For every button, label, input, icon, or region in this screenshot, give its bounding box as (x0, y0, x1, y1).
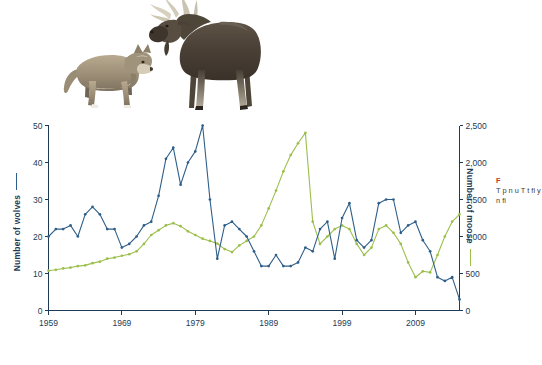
data-point (165, 157, 168, 160)
animal-illustrations (0, 0, 300, 118)
data-point (91, 262, 94, 265)
data-point (253, 250, 256, 253)
y-left-tick-label: 10 (33, 269, 43, 279)
data-point (282, 170, 285, 173)
data-point (216, 257, 219, 260)
data-point (333, 228, 336, 231)
wolf-illustration (62, 26, 154, 112)
series-path (49, 126, 460, 300)
data-point (289, 265, 292, 268)
data-point (436, 276, 439, 279)
y-axis-right-title: Number of moose (465, 157, 475, 277)
data-point (267, 207, 270, 210)
figure-caption-heading: F (496, 176, 542, 186)
y-right-ticks (460, 126, 464, 311)
data-point (143, 224, 146, 227)
data-point (282, 265, 285, 268)
data-point (392, 198, 395, 201)
data-point (172, 222, 175, 225)
data-point (304, 132, 307, 135)
y-axis-left-title: Number of wolves (12, 162, 22, 282)
y-axis-right-title-text: Number of moose (465, 168, 475, 243)
data-point (392, 231, 395, 234)
data-point (348, 228, 351, 231)
data-point (150, 234, 153, 237)
data-point (326, 235, 329, 238)
data-point (121, 246, 124, 249)
series-path (49, 133, 460, 277)
data-point (399, 231, 402, 234)
data-point (341, 217, 344, 220)
moose-illustration (148, 0, 270, 118)
data-point (157, 229, 160, 232)
x-ticks (49, 311, 416, 315)
data-point (289, 154, 292, 157)
data-point (91, 206, 94, 209)
data-point (231, 220, 234, 223)
data-point (319, 228, 322, 231)
data-point (172, 146, 175, 149)
data-point (77, 235, 80, 238)
y-axis-left-title-text: Number of wolves (12, 195, 22, 271)
data-point (62, 228, 65, 231)
y-left-ticks (45, 126, 49, 311)
data-point (143, 243, 146, 246)
data-point (99, 213, 102, 216)
data-point (421, 270, 424, 273)
data-point (370, 246, 373, 249)
data-point (458, 213, 461, 216)
data-point (223, 248, 226, 251)
data-point (333, 257, 336, 260)
data-point (421, 239, 424, 242)
data-point (451, 276, 454, 279)
data-point (47, 235, 50, 238)
x-tick-label: 1959 (39, 318, 58, 328)
data-point (69, 266, 72, 269)
data-point (135, 250, 138, 253)
data-point (363, 254, 366, 257)
data-point (429, 271, 432, 274)
data-point (84, 264, 87, 267)
data-point (187, 230, 190, 233)
data-point (121, 254, 124, 257)
data-point (179, 183, 182, 186)
legend-line-moose (470, 249, 471, 266)
data-point (385, 198, 388, 201)
data-point (238, 244, 241, 247)
y-left-tick-label: 40 (33, 158, 43, 168)
data-point (245, 235, 248, 238)
data-point (106, 228, 109, 231)
data-point (231, 251, 234, 254)
data-point (106, 257, 109, 260)
data-point (99, 260, 102, 263)
figure-caption-body: T p n u T t fi y n fi (496, 186, 542, 206)
data-point (458, 298, 461, 301)
data-point (385, 224, 388, 227)
data-point (275, 254, 278, 257)
data-point (326, 220, 329, 223)
y-right-tick-label: 0 (466, 306, 471, 316)
x-tick-label: 1969 (112, 318, 131, 328)
data-point (194, 150, 197, 153)
data-point (377, 202, 380, 205)
y-right-tick-label: 2,500 (466, 121, 488, 131)
data-point (54, 228, 57, 231)
data-point (179, 225, 182, 228)
x-tick-label: 1999 (333, 318, 352, 328)
series-line-wolves (47, 124, 461, 301)
data-point (414, 276, 417, 279)
data-point (275, 189, 278, 192)
data-point (194, 234, 197, 237)
data-point (355, 239, 358, 242)
data-point (238, 228, 241, 231)
data-point (260, 265, 263, 268)
data-point (399, 243, 402, 246)
data-point (157, 194, 160, 197)
data-point (113, 256, 116, 259)
data-point (69, 224, 72, 227)
data-point (377, 228, 380, 231)
data-point (135, 235, 138, 238)
data-point (47, 269, 50, 272)
data-point (245, 240, 248, 243)
